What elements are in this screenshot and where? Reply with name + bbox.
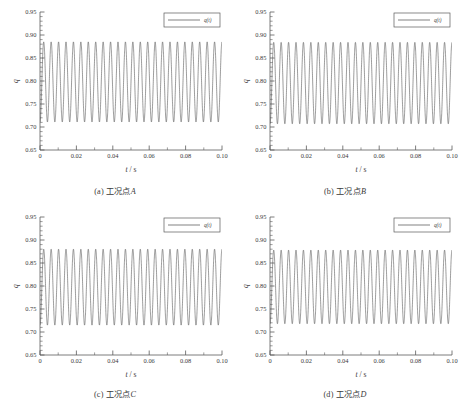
caption-a-prefix: (a) [94,187,104,196]
series-line-d [270,250,452,324]
y-tick-label: 0.80 [255,77,266,84]
y-axis-title: q [11,79,20,83]
x-tick-label: 0.10 [216,357,227,364]
plot-area-c: 0.650.700.750.800.850.900.9500.020.040.0… [0,205,230,383]
panel-d: 0.650.700.750.800.850.900.9500.020.040.0… [230,205,460,409]
caption-a: (a) 工况点A [0,184,230,196]
x-tick-label: 0 [38,357,41,364]
x-tick-label: 0.06 [374,152,385,159]
panel-a: 0.650.700.750.800.850.900.9500.020.040.0… [0,0,230,205]
chart-svg-a: 0.650.700.750.800.850.900.9500.020.040.0… [0,0,230,178]
y-tick-label: 0.65 [25,146,36,153]
x-tick-label: 0.04 [107,357,119,364]
x-tick-label: 0.08 [180,357,191,364]
chart-svg-c: 0.650.700.750.800.850.900.9500.020.040.0… [0,205,230,383]
x-axis-title: t/ s [125,370,136,379]
y-tick-label: 0.85 [255,54,266,61]
x-axis-title: t/ s [355,370,366,379]
caption-b: (b) 工况点B [230,184,460,196]
caption-b-point: B [361,187,366,196]
y-tick-label: 0.75 [255,305,266,312]
caption-d: (d) 工况点D [230,387,460,399]
x-tick-label: 0.08 [410,357,421,364]
plot-area-a: 0.650.700.750.800.850.900.9500.020.040.0… [0,0,230,178]
y-tick-label: 0.80 [25,282,36,289]
y-tick-label: 0.70 [255,328,266,335]
caption-a-point: A [131,187,136,196]
legend-label: q(t) [204,17,212,24]
caption-c-point: C [130,390,136,399]
plot-area-b: 0.650.700.750.800.850.900.9500.020.040.0… [230,0,460,178]
caption-b-text: 工况点 [336,187,361,196]
x-tick-label: 0.06 [144,357,155,364]
y-axis-title: q [241,284,250,288]
caption-c-text: 工况点 [106,390,131,399]
x-tick-label: 0.04 [337,357,349,364]
x-tick-label: 0 [38,152,41,159]
y-tick-label: 0.80 [255,282,266,289]
y-tick-label: 0.80 [25,77,36,84]
caption-b-prefix: (b) [324,187,334,196]
legend-label: q(t) [434,17,442,24]
x-tick-label: 0.10 [216,152,227,159]
series-line-b [270,42,452,123]
series-line-a [40,42,222,122]
caption-a-text: 工况点 [106,187,131,196]
x-tick-label: 0 [268,152,271,159]
x-tick-label: 0.08 [410,152,421,159]
y-tick-label: 0.75 [255,100,266,107]
caption-c-prefix: (c) [94,390,104,399]
caption-c: (c) 工况点C [0,387,230,399]
x-tick-label: 0.02 [301,152,312,159]
y-tick-label: 0.90 [25,31,36,38]
caption-d-text: 工况点 [336,390,361,399]
y-tick-label: 0.95 [255,213,266,220]
legend-label: q(t) [434,222,442,229]
series-line-c [40,249,222,325]
plot-area-d: 0.650.700.750.800.850.900.9500.020.040.0… [230,205,460,383]
y-axis-title: q [241,79,250,83]
x-tick-label: 0.10 [446,152,457,159]
y-tick-label: 0.90 [255,31,266,38]
chart-svg-d: 0.650.700.750.800.850.900.9500.020.040.0… [230,205,460,383]
caption-d-prefix: (d) [323,390,333,399]
y-tick-label: 0.70 [25,123,36,130]
y-axis-title: q [11,284,20,288]
caption-d-point: D [360,390,366,399]
y-tick-label: 0.85 [255,259,266,266]
x-tick-label: 0.02 [71,357,82,364]
y-tick-label: 0.95 [255,8,266,15]
x-axis-title: t/ s [355,165,366,174]
x-axis-title: t/ s [125,165,136,174]
panel-c: 0.650.700.750.800.850.900.9500.020.040.0… [0,205,230,409]
x-tick-label: 0.06 [144,152,155,159]
y-tick-label: 0.75 [25,100,36,107]
y-tick-label: 0.65 [255,351,266,358]
y-tick-label: 0.95 [25,8,36,15]
legend-label: q(t) [204,222,212,229]
x-tick-label: 0 [268,357,271,364]
y-tick-label: 0.95 [25,213,36,220]
y-tick-label: 0.70 [25,328,36,335]
y-tick-label: 0.65 [255,146,266,153]
x-tick-label: 0.10 [446,357,457,364]
panel-b: 0.650.700.750.800.850.900.9500.020.040.0… [230,0,460,205]
x-tick-label: 0.02 [301,357,312,364]
y-tick-label: 0.65 [25,351,36,358]
x-tick-label: 0.04 [337,152,349,159]
x-tick-label: 0.08 [180,152,191,159]
y-tick-label: 0.90 [255,236,266,243]
y-tick-label: 0.90 [25,236,36,243]
x-tick-label: 0.02 [71,152,82,159]
figure-grid: 0.650.700.750.800.850.900.9500.020.040.0… [0,0,460,409]
y-tick-label: 0.75 [25,305,36,312]
chart-svg-b: 0.650.700.750.800.850.900.9500.020.040.0… [230,0,460,178]
y-tick-label: 0.70 [255,123,266,130]
x-tick-label: 0.06 [374,357,385,364]
y-tick-label: 0.85 [25,259,36,266]
x-tick-label: 0.04 [107,152,119,159]
y-tick-label: 0.85 [25,54,36,61]
